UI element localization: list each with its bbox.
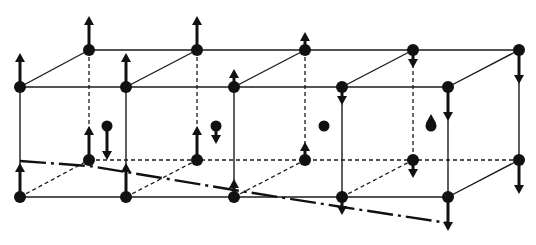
arrow-down-icon	[211, 135, 221, 144]
visible-edges	[20, 50, 519, 197]
arrow-up-icon	[121, 53, 131, 62]
arrow-up-icon	[426, 114, 436, 123]
atom-dot	[102, 121, 113, 132]
bottom-right-depth-edge	[448, 160, 519, 197]
top-depth-edge	[20, 50, 89, 87]
arrow-up-icon	[229, 69, 239, 78]
arrow-up-icon	[84, 126, 94, 135]
arrow-up-icon	[15, 53, 25, 62]
arrow-up-icon	[300, 142, 310, 151]
arrow-down-icon	[337, 96, 347, 105]
arrow-up-icon	[300, 32, 310, 41]
atom-dot	[211, 121, 222, 132]
arrow-down-icon	[408, 59, 418, 68]
top-depth-edge	[234, 50, 305, 87]
arrow-down-icon	[443, 112, 453, 121]
top-depth-edge	[126, 50, 197, 87]
arrow-down-icon	[514, 185, 524, 194]
arrow-up-icon	[15, 163, 25, 172]
top-depth-edge	[342, 50, 413, 87]
arrow-up-icon	[229, 179, 239, 188]
hidden-edges	[20, 50, 519, 197]
arrow-up-icon	[84, 16, 94, 25]
top-depth-edge	[448, 50, 519, 87]
arrow-up-icon	[192, 16, 202, 25]
bottom-depth-hidden-edge	[342, 160, 413, 197]
arrow-down-icon	[514, 75, 524, 84]
arrow-down-icon	[408, 169, 418, 178]
atom-dot	[319, 121, 330, 132]
arrow-up-icon	[192, 126, 202, 135]
arrow-down-icon	[337, 206, 347, 215]
arrow-down-icon	[102, 151, 112, 160]
arrow-down-icon	[443, 222, 453, 231]
arrow-up-icon	[121, 163, 131, 172]
magnetic-unit-cell-diagram	[0, 0, 536, 245]
